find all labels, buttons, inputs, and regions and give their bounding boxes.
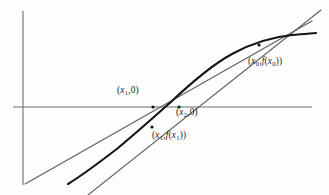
label-x2-zero: (x2,0) xyxy=(176,108,198,117)
label-x1-fx1-sub: 1 xyxy=(159,134,163,141)
label-x2-zero-sub: 2 xyxy=(183,111,187,118)
label-x1-fx1-close: )) xyxy=(180,130,186,140)
label-x1-zero-rest: ,0) xyxy=(128,85,138,95)
label-x1-zero: (x1,0) xyxy=(117,86,139,95)
label-x1-fx1-sub2: 1 xyxy=(176,134,180,141)
point-x1-zero-dot xyxy=(151,105,154,108)
point-x1-fx1-dot xyxy=(150,125,153,128)
tangent-line-at-x0 xyxy=(88,10,321,195)
point-x0-fx0-dot xyxy=(257,43,260,46)
label-x1-fx1: (x1,f(x1)) xyxy=(152,131,186,140)
label-x0-fx0-sub: 0 xyxy=(255,60,259,67)
tangent-line-at-x1 xyxy=(25,21,312,184)
label-x0-fx0-close: )) xyxy=(276,56,282,66)
label-x1-zero-sub: 1 xyxy=(124,89,128,96)
label-x2-zero-rest: ,0) xyxy=(187,107,197,117)
figure-canvas xyxy=(0,0,329,195)
label-x0-fx0: (x0,f(x0)) xyxy=(248,57,282,66)
newton-method-figure: (x1,0) (x2,0) (x1,f(x1)) (x0,f(x0)) xyxy=(0,0,329,195)
label-x0-fx0-sub2: 0 xyxy=(272,60,276,67)
